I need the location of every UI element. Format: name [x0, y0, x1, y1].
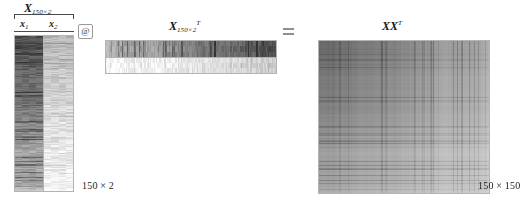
- middle-matrix-row-2: [106, 58, 276, 73]
- equals-bar-bottom: [283, 33, 294, 35]
- column-label-x2-subscript: 2: [54, 23, 58, 31]
- right-matrix-header-superscript: T: [398, 19, 402, 27]
- matrix-multiplication-figure: X150×2 x1 x2 150 × 2 @ X150×2T =: [0, 0, 531, 211]
- middle-matrix-row-2-texture: [106, 58, 276, 73]
- middle-matrix-header-superscript: T: [196, 19, 200, 27]
- middle-matrix-row-1: [106, 41, 276, 58]
- right-matrix-gram-texture: [319, 41, 490, 194]
- left-matrix-column-x1-texture: [15, 36, 44, 191]
- middle-matrix-header-var: X: [169, 19, 177, 33]
- left-matrix-column-label-x1: x1: [20, 19, 29, 31]
- matmul-operator-icon: @: [78, 24, 93, 39]
- left-matrix-X: [14, 35, 74, 192]
- middle-matrix-row-1-texture: [106, 41, 276, 58]
- middle-matrix-X-transpose: [105, 40, 277, 74]
- right-matrix-dimension-label: 150 × 150: [478, 181, 520, 191]
- column-label-x1-subscript: 1: [25, 23, 29, 31]
- left-matrix-header-var: X: [24, 1, 32, 15]
- left-matrix-column-x2: [44, 36, 73, 191]
- middle-matrix-header-subscript: 150×2: [177, 26, 196, 34]
- left-matrix-column-x2-texture: [44, 36, 73, 191]
- left-matrix-dimension-label: 150 × 2: [82, 181, 114, 191]
- left-matrix-column-x1: [15, 36, 44, 191]
- middle-matrix-header: X150×2T: [169, 20, 200, 34]
- right-matrix-header-var: XX: [382, 19, 398, 33]
- right-matrix-header: XXT: [382, 20, 402, 32]
- equals-bar-top: [283, 28, 294, 30]
- right-matrix-gram: [318, 40, 490, 194]
- equals-operator-icon: [283, 28, 294, 35]
- left-matrix-column-label-x2: x2: [49, 19, 58, 31]
- left-matrix-header-rule: [14, 31, 74, 32]
